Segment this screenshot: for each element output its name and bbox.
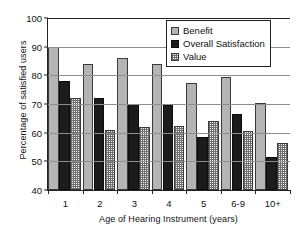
gridline: [48, 161, 290, 162]
x-tick-mark: [117, 190, 118, 194]
bar: [197, 137, 208, 190]
legend-swatch-icon: [171, 27, 179, 35]
bar: [59, 81, 70, 190]
y-tick-label: 50: [31, 156, 42, 167]
x-tick-label: 4: [166, 198, 171, 209]
y-tick-mark: [44, 104, 48, 105]
bar: [117, 58, 128, 190]
legend-label: Benefit: [183, 25, 213, 36]
gridline: [48, 75, 290, 76]
x-axis-title: Age of Hearing Instrument (years): [47, 214, 290, 224]
gridline: [48, 133, 290, 134]
y-tick-mark: [44, 75, 48, 76]
legend-label: Value: [183, 51, 207, 62]
x-tick-mark: [83, 190, 84, 194]
legend-swatch-icon: [171, 53, 179, 61]
bar: [152, 64, 163, 190]
x-tick-label: 1: [63, 198, 68, 209]
y-tick-label: 40: [31, 185, 42, 196]
x-tick-mark: [290, 190, 291, 194]
x-tick-mark: [152, 190, 153, 194]
x-tick-label: 3: [132, 198, 137, 209]
x-tick-label: 6-9: [231, 198, 245, 209]
y-tick-label: 100: [26, 13, 42, 24]
y-tick-label: 60: [31, 127, 42, 138]
legend-swatch-icon: [171, 40, 179, 48]
chart-legend: BenefitOverall SatisfactionValue: [166, 20, 271, 67]
y-tick-label: 70: [31, 99, 42, 110]
y-tick-label: 80: [31, 70, 42, 81]
legend-item: Benefit: [171, 24, 265, 37]
x-tick-label: 2: [97, 198, 102, 209]
x-tick-mark: [221, 190, 222, 194]
bar: [48, 47, 59, 190]
y-tick-mark: [44, 46, 48, 47]
x-tick-mark: [255, 190, 256, 194]
bar: [208, 121, 219, 190]
bar: [232, 114, 243, 190]
bar: [163, 105, 174, 190]
bar: [105, 130, 116, 190]
bar: [94, 98, 105, 190]
bar-chart: Percentage of satisfied users 4050607080…: [0, 0, 304, 235]
bar: [139, 127, 150, 190]
y-tick-mark: [44, 161, 48, 162]
bar: [277, 143, 288, 190]
x-tick-label: 10+: [265, 198, 281, 209]
bar: [174, 126, 185, 191]
y-axis-title: Percentage of satisfied users: [18, 15, 28, 185]
legend-item: Value: [171, 50, 265, 63]
legend-item: Overall Satisfaction: [171, 37, 265, 50]
gridline: [48, 104, 290, 105]
x-tick-label: 5: [201, 198, 206, 209]
y-tick-label: 90: [31, 41, 42, 52]
bar: [70, 98, 81, 190]
bar: [128, 104, 139, 190]
bar: [255, 103, 266, 190]
y-tick-mark: [44, 132, 48, 133]
x-tick-mark: [186, 190, 187, 194]
y-tick-mark: [44, 18, 48, 19]
x-tick-mark: [48, 190, 49, 194]
legend-label: Overall Satisfaction: [183, 38, 265, 49]
gridline: [48, 18, 290, 19]
bar: [83, 64, 94, 190]
bar: [186, 83, 197, 191]
